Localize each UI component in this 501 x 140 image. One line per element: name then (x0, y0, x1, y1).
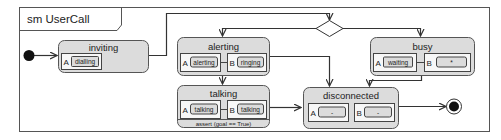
region-label: A (183, 59, 189, 68)
substate: - (377, 109, 379, 116)
region-label: B (230, 59, 235, 68)
state-name: disconnected (323, 90, 379, 101)
state-name: talking (210, 88, 237, 99)
state-disconnected[interactable]: disconnected A - B - (304, 88, 399, 129)
substate: - (331, 109, 333, 116)
region-label: B (357, 109, 362, 118)
substate: ringing (241, 59, 261, 67)
region-label: B (230, 106, 235, 115)
state-alerting[interactable]: alerting A alerting B ringing (178, 38, 270, 76)
state-talking[interactable]: talking A talking B talking assert (goal… (178, 86, 270, 128)
substate: alerting (193, 59, 215, 67)
state-machine-diagram: sm UserCall inviting A dialli (0, 0, 501, 140)
state-invariant: assert (goal == True) (196, 121, 252, 127)
state-name: busy (412, 41, 432, 52)
region-label: A (376, 59, 382, 68)
state-name: inviting (89, 42, 119, 53)
substate: dialling (75, 58, 96, 66)
substate: waiting (387, 59, 409, 67)
region-label: B (427, 59, 432, 68)
final-state-icon (447, 99, 462, 114)
state-inviting[interactable]: inviting A dialling (59, 41, 149, 73)
state-busy[interactable]: busy A waiting B * (371, 38, 475, 76)
region-label: A (64, 58, 70, 67)
diagram-title: sm UserCall (27, 13, 90, 25)
state-name: alerting (208, 41, 239, 52)
region-label: A (311, 109, 317, 118)
substate: talking (241, 106, 260, 114)
substate: talking (195, 106, 214, 114)
region-label: A (183, 106, 189, 115)
initial-pseudostate-icon (24, 50, 35, 61)
